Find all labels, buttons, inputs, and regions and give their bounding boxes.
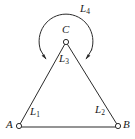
figure-canvas	[0, 0, 135, 139]
segment-label-l3: L3	[59, 53, 69, 65]
segment-label-l2: L2	[95, 104, 105, 116]
vertex-label-c: C	[62, 24, 69, 35]
segment-label-l3-sub: 3	[65, 57, 69, 66]
segment-label-l2-sub: 2	[101, 108, 105, 117]
segment-c-to-b	[66, 42, 118, 126]
segment-label-l1-sub: 1	[36, 110, 40, 119]
arc-arrowhead-left-tip	[42, 54, 47, 59]
vertex-label-b: B	[123, 119, 130, 130]
segment-label-l1: L1	[30, 106, 40, 118]
arc-arrowhead-right-tip	[86, 54, 91, 59]
vertex-marker-b	[115, 123, 120, 128]
vertex-marker-a	[16, 123, 21, 128]
segment-label-l4: L4	[80, 3, 90, 15]
segment-label-l4-sub: 4	[86, 7, 90, 16]
vertex-label-a: A	[6, 119, 13, 130]
geometry-figure: A B C L1 L2 L3 L4	[0, 0, 135, 139]
vertex-marker-c	[63, 39, 68, 44]
